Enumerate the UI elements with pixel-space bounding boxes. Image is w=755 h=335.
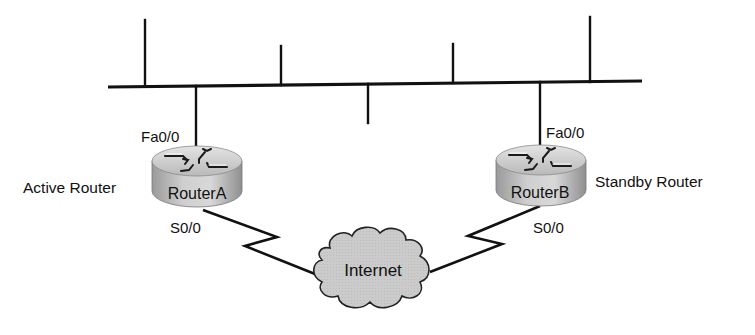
router-a-wan-interface: S0/0 [170, 219, 201, 236]
router-b-role: Standby Router [595, 173, 703, 190]
network-diagram: RouterA Fa0/0 Active Router S0/0 RouterB… [0, 0, 755, 335]
router-b-lan-interface: Fa0/0 [546, 124, 584, 141]
router-a-role: Active Router [23, 179, 116, 196]
internet-label: Internet [344, 261, 402, 280]
router-a-name: RouterA [168, 185, 227, 202]
router-b-name: RouterB [511, 184, 570, 201]
routerA-serial-link [203, 210, 320, 276]
lan-bus-line [108, 81, 642, 87]
lan-segment [108, 17, 642, 123]
routerB-serial-link [430, 206, 540, 272]
router-a-lan-interface: Fa0/0 [141, 128, 179, 145]
router-b-wan-interface: S0/0 [533, 219, 564, 236]
